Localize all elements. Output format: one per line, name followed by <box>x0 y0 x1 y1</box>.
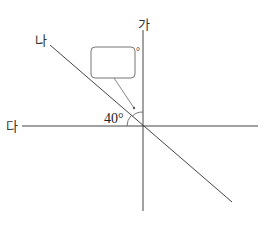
answer-box-unit: ° <box>136 46 140 57</box>
label-horizontal: 다 <box>6 119 18 134</box>
angle-arc-40 <box>127 116 131 126</box>
angle-label: 40° <box>104 111 124 126</box>
diagonal-line <box>50 45 232 202</box>
pointer-line <box>114 78 134 108</box>
label-vertical: 가 <box>138 17 150 32</box>
diagram: ° 40° 가 나 다 <box>0 0 266 230</box>
angle-arc-unknown <box>132 112 143 117</box>
label-diagonal: 나 <box>35 33 47 48</box>
pointer-dot <box>133 107 135 109</box>
answer-box[interactable] <box>91 47 135 78</box>
lines-diagram: ° 40° 가 나 다 <box>0 0 266 230</box>
